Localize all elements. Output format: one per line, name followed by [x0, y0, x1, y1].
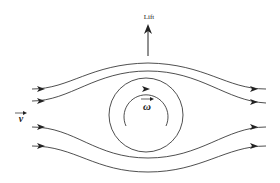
- v-vector-head: [23, 111, 27, 115]
- magnus-effect-diagram: Lift ω v: [0, 0, 280, 183]
- streamline-top-outer: [32, 63, 266, 89]
- rotation-arrowhead: [142, 86, 150, 92]
- outlet-arrowhead: [250, 124, 258, 130]
- streamline-bottom-outer: [32, 146, 266, 172]
- angular-velocity-label: ω: [143, 100, 151, 112]
- outlet-arrowhead: [250, 86, 258, 92]
- lift-label: Lift: [144, 13, 155, 21]
- outlet-arrowhead: [250, 99, 258, 105]
- streamline-top-inner: [32, 71, 266, 103]
- outlet-arrowhead: [250, 143, 258, 149]
- streamline-bottom-inner: [32, 127, 266, 158]
- omega-vector-head: [150, 97, 154, 101]
